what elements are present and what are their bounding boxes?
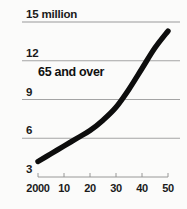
x-axis-tick-label-2050: 50	[148, 183, 187, 194]
y-axis-tick-15: 15 million	[26, 9, 77, 21]
y-axis-tick-9: 9	[26, 87, 32, 99]
chart-container: 15 million12963 20001020304050 65 and ov…	[0, 0, 187, 209]
x-axis	[38, 173, 168, 177]
series-line-65-and-over	[38, 31, 168, 161]
data-series-65-and-over	[38, 31, 168, 161]
y-axis-tick-6: 6	[26, 125, 32, 137]
y-axis-tick-3: 3	[26, 164, 32, 176]
y-axis-tick-12: 12	[26, 48, 38, 60]
chart-plot-area	[0, 0, 187, 209]
series-label-65-and-over: 65 and over	[38, 66, 104, 79]
